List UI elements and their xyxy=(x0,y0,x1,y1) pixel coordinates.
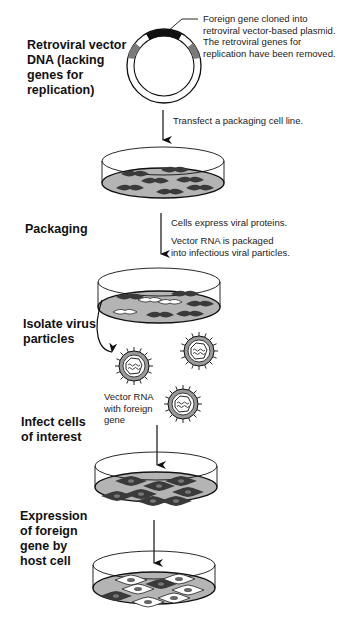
step-label-packaging: Packaging xyxy=(25,222,88,237)
step-label-expression: Expression of foreign gene by host cell xyxy=(20,509,87,569)
dish-infected-cells xyxy=(95,452,217,506)
note-express: Cells express viral proteins. xyxy=(171,217,287,229)
dish-virus-producing-cells xyxy=(98,268,220,323)
note-vector-rna: Vector RNA with foreign gene xyxy=(104,391,154,426)
step-label-vector-dna: Retroviral vector DNA (lacking genes for… xyxy=(27,38,126,98)
note-transfect: Transfect a packaging cell line. xyxy=(173,115,303,127)
step-label-isolate: Isolate virus particles xyxy=(23,317,96,347)
note-plasmid: Foreign gene cloned into retroviral vect… xyxy=(203,13,336,59)
dish-packaging-cells xyxy=(102,147,224,198)
plasmid-diagram xyxy=(127,19,201,103)
note-packaged: Vector RNA is packaged into infectious v… xyxy=(171,235,290,258)
step-label-infect: Infect cells of interest xyxy=(21,415,86,445)
